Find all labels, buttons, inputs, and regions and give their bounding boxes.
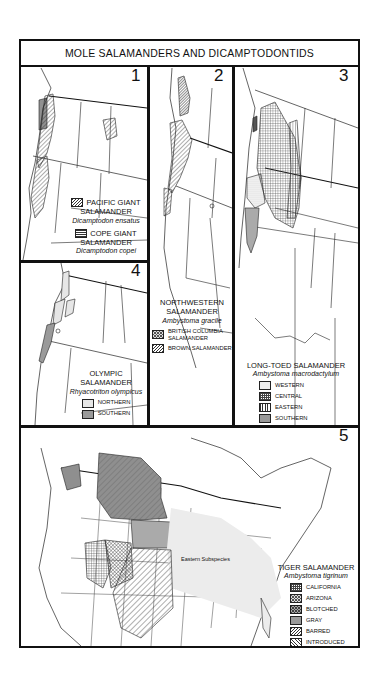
southern-swatch [82,410,94,419]
blotched-label: BLOTCHED [306,606,338,613]
western-label: WESTERN [275,382,304,389]
barred-label: BARRED [306,628,330,635]
olympic-salamander-label: OLYMPIC SALAMANDER [65,369,147,388]
central-swatch [259,392,271,401]
figure-title: MOLE SALAMANDERS AND DICAMPTODONTIDS [21,41,358,67]
eastern-label: EASTERN [275,404,302,411]
barred-swatch [290,627,302,636]
panel-4-legend: OLYMPIC SALAMANDER Rhyacotriton olympicu… [65,369,147,419]
pacific-giant-scientific: Dicamptodon ensatus [65,217,147,226]
panel-1-legend: PACIFIC GIANT SALAMANDER Dicamptodon ens… [65,198,147,256]
gray-swatch [290,616,302,625]
southern-label-3: SOUTHERN [275,415,308,422]
long-toed-salamander-scientific: Ambystoma macrodactylum [237,370,355,379]
panel-4-map: 4 OLYMPIC SALAMANDER Rhyacotriton olympi… [21,263,147,425]
panel-number-1: 1 [131,68,140,86]
california-label: CALIFORNIA [306,584,341,591]
tiger-salamander-label: TIGER SALAMANDER [276,563,356,572]
blotched-swatch [290,605,302,614]
cope-giant-label: COPE GIANT [90,229,136,238]
southern-swatch-3 [259,414,271,423]
eastern-subspecies-label: Eastern Subspecies [181,556,230,562]
eastern-swatch [259,403,271,412]
cope-giant-scientific: Dicamptodon copei [65,247,147,256]
olympic-salamander-scientific: Rhyacotriton olympicus [65,388,147,397]
northern-swatch [82,399,94,408]
northern-label: NORTHERN [98,399,131,406]
panel-5-legend: TIGER SALAMANDER Ambystoma tigrinum CALI… [276,563,356,646]
cope-giant-label-2: SALAMANDER [65,238,147,247]
british-columbia-swatch [152,330,164,339]
map-west-coast-2 [150,68,232,425]
pacific-giant-swatch [71,198,83,207]
western-swatch [259,381,271,390]
panel-3-legend: LONG-TOED SALAMANDER Ambystoma macrodact… [237,361,355,425]
pacific-giant-label: PACIFIC GIANT [86,198,140,207]
panel-number-4: 4 [131,263,140,281]
northwestern-salamander-scientific: Ambystoma gracile [152,317,232,326]
california-swatch [290,583,302,592]
panel-number-3: 3 [339,68,348,86]
tiger-salamander-scientific: Ambystoma tigrinum [276,572,356,581]
panel-1-map: 1 PACIFIC GIANT SALAMANDER Dicamptodon e… [21,68,147,260]
pacific-giant-label-2: SALAMANDER [65,207,147,216]
brown-salamander-label: BROWN SALAMANDER [168,345,232,352]
arizona-label: ARIZONA [306,595,332,602]
panel-2-map: 2 NORTHWESTERN SALAMANDER Ambystoma grac… [150,68,232,425]
arizona-swatch [290,594,302,603]
panel-number-2: 2 [214,68,223,86]
panel-5-map: 5 Eastern Subspecies TIGER SALAMANDER Am… [21,428,358,646]
panel-3-map: 3 LONG-TOED SALAMANDER Ambystoma macroda… [235,68,358,425]
gray-label: GRAY [306,617,322,624]
cope-giant-swatch [75,229,87,238]
panel-2-legend: NORTHWESTERN SALAMANDER Ambystoma gracil… [152,298,232,353]
northwestern-salamander-label: NORTHWESTERN [152,298,232,307]
figure-frame: MOLE SALAMANDERS AND DICAMPTODONTIDS 1 P… [19,39,360,648]
northwestern-salamander-label-2: SALAMANDER [152,307,232,316]
brown-salamander-swatch [152,344,164,353]
introduced-swatch [290,638,302,646]
introduced-label: INTRODUCED [306,639,345,646]
long-toed-salamander-label: LONG-TOED SALAMANDER [237,361,355,370]
panel-number-5: 5 [339,428,348,446]
southern-label: SOUTHERN [98,410,131,417]
central-label: CENTRAL [275,393,302,400]
british-columbia-label: BRITISH COLUMBIA SALAMANDER [168,328,232,342]
